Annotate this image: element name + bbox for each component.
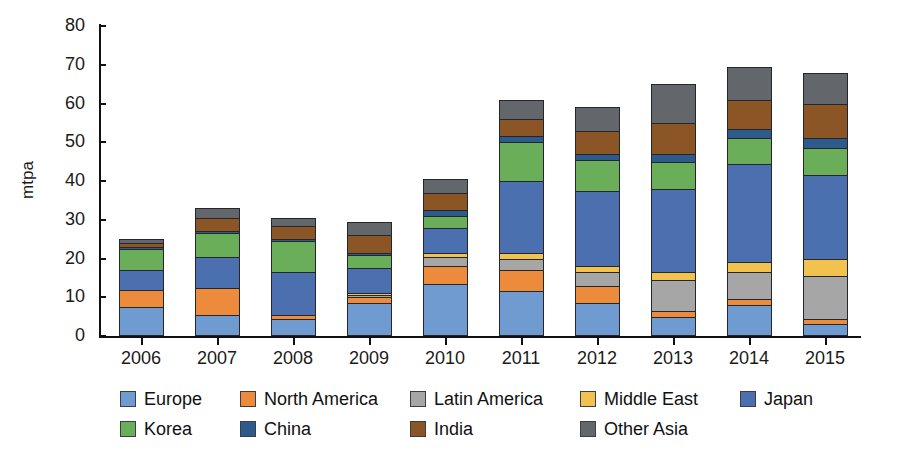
bar-segment-europe: [347, 303, 392, 336]
legend-label: India: [434, 419, 473, 440]
bar-2007: [195, 208, 240, 336]
bar-segment-korea: [727, 138, 772, 163]
bar-segment-middle-east: [803, 259, 848, 276]
bar-segment-india: [803, 104, 848, 139]
bar-segment-latin-america: [727, 272, 772, 299]
legend-item-korea[interactable]: Korea: [120, 414, 192, 444]
legend-item-china[interactable]: China: [240, 414, 311, 444]
bar-segment-europe: [651, 317, 696, 336]
legend-item-india[interactable]: India: [410, 414, 473, 444]
bar-segment-india: [727, 100, 772, 129]
x-axis-tick-mark: [217, 338, 219, 345]
x-axis-tick-label: 2006: [101, 348, 181, 369]
x-axis-tick-label: 2013: [633, 348, 713, 369]
x-axis-tick-label: 2009: [329, 348, 409, 369]
x-axis-tick-label: 2010: [405, 348, 485, 369]
bar-segment-japan: [423, 228, 468, 253]
y-axis-tick-label: 30: [65, 209, 85, 230]
legend-label: Korea: [144, 419, 192, 440]
bar-segment-korea: [803, 148, 848, 175]
legend-item-other-asia[interactable]: Other Asia: [580, 414, 688, 444]
bar-segment-korea: [499, 142, 544, 181]
bar-segment-india: [347, 235, 392, 252]
legend-label: Latin America: [434, 389, 543, 410]
legend-swatch-icon: [580, 391, 596, 407]
x-axis-tick-mark: [141, 338, 143, 345]
legend-swatch-icon: [120, 421, 136, 437]
bar-segment-latin-america: [575, 272, 620, 286]
bar-segment-china: [727, 129, 772, 139]
bar-segment-japan: [347, 268, 392, 293]
legend-item-japan[interactable]: Japan: [740, 384, 813, 414]
bar-segment-europe: [195, 315, 240, 336]
y-axis-tick-label: 60: [65, 93, 85, 114]
x-axis-tick-mark: [293, 338, 295, 345]
legend-row-top: EuropeNorth AmericaLatin AmericaMiddle E…: [120, 384, 880, 414]
legend-item-latin-america[interactable]: Latin America: [410, 384, 543, 414]
bar-segment-china: [651, 154, 696, 162]
bar-segment-india: [195, 218, 240, 232]
legend-swatch-icon: [740, 391, 756, 407]
bar-segment-north-america: [119, 290, 164, 307]
bar-segment-other-asia: [803, 73, 848, 104]
legend-swatch-icon: [410, 391, 426, 407]
bar-segment-other-asia: [423, 179, 468, 193]
legend-swatch-icon: [120, 391, 136, 407]
bar-segment-india: [499, 119, 544, 136]
bar-segment-middle-east: [727, 262, 772, 272]
bar-segment-latin-america: [423, 257, 468, 267]
x-axis-tick-mark: [369, 338, 371, 345]
bar-segment-north-america: [195, 288, 240, 315]
bar-segment-middle-east: [651, 272, 696, 280]
bar-segment-japan: [651, 189, 696, 272]
legend-swatch-icon: [410, 421, 426, 437]
bar-segment-other-asia: [575, 107, 620, 130]
bar-segment-other-asia: [499, 100, 544, 119]
bar-segment-india: [271, 226, 316, 240]
bar-segment-other-asia: [195, 208, 240, 218]
bar-segment-other-asia: [347, 222, 392, 236]
legend-swatch-icon: [240, 391, 256, 407]
bar-segment-korea: [271, 241, 316, 272]
bar-segment-china: [803, 138, 848, 148]
bar-segment-japan: [727, 164, 772, 263]
bar-2009: [347, 222, 392, 336]
bar-segment-korea: [575, 160, 620, 191]
bar-segment-japan: [271, 272, 316, 315]
bar-2008: [271, 218, 316, 336]
bar-segment-japan: [195, 257, 240, 288]
x-axis-tick-label: 2012: [557, 348, 637, 369]
bar-segment-india: [423, 193, 468, 210]
y-axis-tick-label: 10: [65, 286, 85, 307]
bar-2013: [651, 84, 696, 336]
y-axis-tick-label: 20: [65, 248, 85, 269]
x-axis-tick-mark: [749, 338, 751, 345]
legend-row-bottom: KoreaChinaIndiaOther Asia: [120, 414, 880, 444]
legend-label: Japan: [764, 389, 813, 410]
legend-item-north-america[interactable]: North America: [240, 384, 378, 414]
legend-item-europe[interactable]: Europe: [120, 384, 202, 414]
bar-segment-latin-america: [499, 259, 544, 271]
bar-segment-europe: [499, 291, 544, 336]
chart-legend: EuropeNorth AmericaLatin AmericaMiddle E…: [120, 384, 880, 454]
x-axis-tick-label: 2014: [709, 348, 789, 369]
legend-item-middle-east[interactable]: Middle East: [580, 384, 698, 414]
bar-2012: [575, 107, 620, 336]
x-axis-line: [99, 336, 861, 338]
bar-segment-europe: [803, 324, 848, 336]
bar-segment-japan: [575, 191, 620, 267]
bar-segment-other-asia: [651, 84, 696, 123]
bar-segment-europe: [423, 284, 468, 336]
bar-segment-north-america: [575, 286, 620, 303]
bar-segment-korea: [195, 233, 240, 256]
bar-segment-europe: [271, 319, 316, 336]
bar-segment-japan: [499, 181, 544, 253]
legend-swatch-icon: [580, 421, 596, 437]
legend-label: China: [264, 419, 311, 440]
x-axis-tick-mark: [521, 338, 523, 345]
x-axis-tick-label: 2015: [785, 348, 865, 369]
bar-segment-europe: [119, 307, 164, 336]
bar-segment-korea: [651, 162, 696, 189]
legend-swatch-icon: [240, 421, 256, 437]
bar-2015: [803, 73, 848, 337]
